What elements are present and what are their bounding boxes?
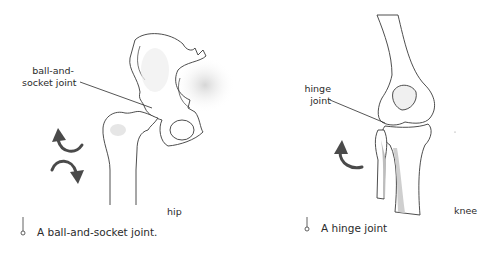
rotation-arrows (52, 128, 84, 184)
knee-caption: A hinge joint (321, 222, 387, 234)
knee-region-label: knee (454, 205, 477, 217)
hinge-leader (330, 100, 385, 123)
clockwise-arrow-icon (52, 161, 76, 172)
counterclockwise-arrow-icon (58, 140, 82, 151)
hinge-label-line1: hinge (295, 83, 331, 95)
tibia-bone (382, 124, 431, 215)
knee-diagram (330, 15, 456, 215)
ball-socket-label-line1: ball-and- (22, 65, 74, 77)
hip-diagram (52, 34, 235, 205)
hinge-label-line2: joint (295, 95, 331, 107)
counterclockwise-arrow-icon (340, 152, 362, 168)
ball-socket-label: ball-and- socket joint (22, 65, 74, 89)
caption-marker-knee-icon (305, 217, 309, 231)
femur-bone (103, 111, 158, 205)
hip-region-label: hip (167, 206, 182, 218)
ball-socket-label-line2: socket joint (22, 77, 74, 89)
joints-illustration (0, 0, 494, 254)
caption-marker-hip-icon (21, 217, 25, 235)
flexion-arrow (334, 140, 362, 168)
hip-caption: A ball-and-socket joint. (37, 226, 157, 238)
acetabulum-ring (170, 120, 194, 140)
hinge-label: hinge joint (295, 83, 331, 107)
